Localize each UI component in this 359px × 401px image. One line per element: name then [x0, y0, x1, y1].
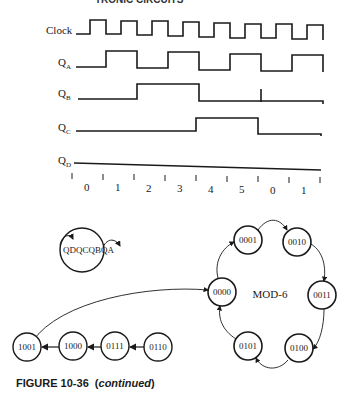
svg-text:0: 0 [84, 181, 90, 193]
svg-text:0101: 0101 [239, 341, 257, 351]
qb-label: QB [58, 87, 71, 102]
svg-text:3: 3 [177, 182, 183, 194]
svg-text:1001: 1001 [18, 342, 36, 352]
qc-label: QC [58, 121, 71, 136]
qc-waveform [76, 118, 321, 136]
qa-label: QA [58, 56, 71, 71]
svg-text:0100: 0100 [290, 343, 309, 353]
qd-label: QD [58, 154, 71, 169]
svg-text:0: 0 [270, 184, 276, 196]
qb-waveform [78, 84, 323, 104]
state-legend-text: QDQCQBQA [63, 245, 115, 255]
figure-caption: FIGURE 10-36 (continued) [16, 377, 155, 389]
clock-waveform [76, 20, 323, 40]
svg-text:1000: 1000 [64, 341, 83, 351]
svg-text:4: 4 [208, 183, 214, 195]
count-labels: 0 1 2 3 4 5 0 1 [84, 181, 307, 196]
svg-text:5: 5 [239, 183, 245, 195]
svg-text:0110: 0110 [149, 342, 167, 352]
qa-waveform [76, 51, 323, 72]
svg-text:0000: 0000 [213, 287, 232, 297]
svg-text:1: 1 [115, 181, 121, 193]
svg-text:0011: 0011 [313, 290, 331, 300]
mod6-label: MOD-6 [253, 288, 288, 300]
count-ticks [72, 173, 320, 183]
clock-label: Clock [46, 24, 73, 36]
svg-text:1: 1 [301, 184, 307, 196]
figure-canvas: Clock QA QB QC QD 0 1 2 3 4 5 0 1 [0, 0, 359, 401]
svg-text:0001: 0001 [239, 235, 257, 245]
svg-text:2: 2 [146, 182, 152, 194]
qd-waveform [74, 163, 321, 170]
svg-text:0111: 0111 [106, 341, 123, 351]
svg-text:0010: 0010 [288, 237, 307, 247]
